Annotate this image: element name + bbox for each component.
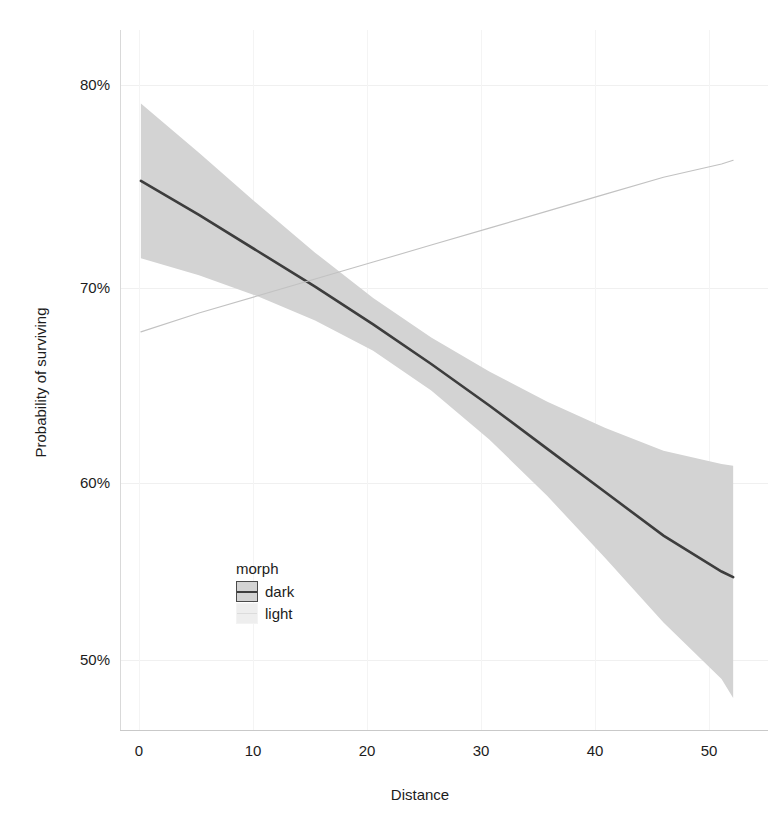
chart-canvas: 80% 70% 60% 50% 0 10 20 30 40 50 Probabi… [0, 0, 776, 832]
y-tick-label-80: 80% [52, 77, 110, 92]
legend-label-dark: dark [265, 584, 294, 599]
legend-key-light-icon [236, 603, 258, 624]
y-tick-label-70: 70% [52, 280, 110, 295]
legend-title: morph [236, 560, 294, 577]
y-tick-label-50: 50% [52, 652, 110, 667]
y-axis-line [120, 30, 121, 730]
x-axis-line [120, 730, 768, 731]
x-tick-label-20: 20 [337, 742, 397, 759]
x-axis-title: Distance [120, 786, 720, 803]
x-tick-label-30: 30 [451, 742, 511, 759]
legend-key-dark-icon [236, 581, 258, 602]
legend-item-dark[interactable]: dark [236, 580, 294, 602]
x-tick-label-10: 10 [223, 742, 283, 759]
legend-item-light[interactable]: light [236, 602, 294, 624]
legend: morph dark light [236, 560, 294, 624]
plot-series-layer [120, 30, 768, 730]
y-tick-label-60: 60% [52, 475, 110, 490]
y-axis-title: Probability of surviving [32, 263, 49, 503]
legend-label-light: light [265, 606, 293, 621]
confidence-band-dark [141, 104, 733, 698]
x-tick-label-50: 50 [679, 742, 739, 759]
x-tick-label-0: 0 [109, 742, 169, 759]
x-tick-label-40: 40 [565, 742, 625, 759]
